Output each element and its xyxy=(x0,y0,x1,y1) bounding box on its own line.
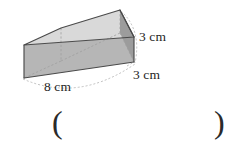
dimension-label-length: 8 cm xyxy=(44,80,71,94)
dimension-label-depth: 3 cm xyxy=(133,68,160,82)
rectangular-prism-drawing xyxy=(0,0,246,146)
answer-parenthesis-open: ( xyxy=(52,106,63,138)
figure-canvas: 3 cm 3 cm 8 cm ( ) xyxy=(0,0,246,146)
dimension-label-height: 3 cm xyxy=(139,30,166,44)
answer-parenthesis-close: ) xyxy=(214,106,225,138)
